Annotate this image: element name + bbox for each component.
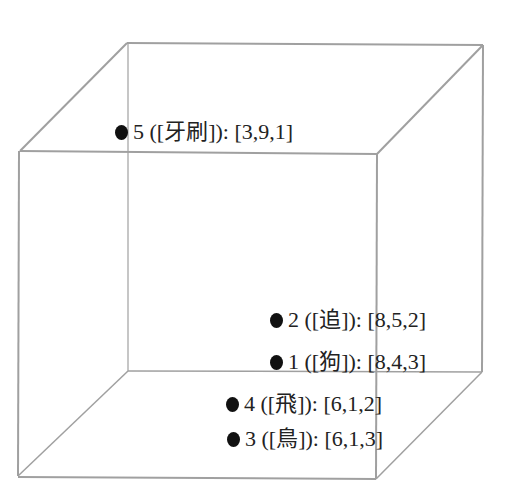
cube-wireframe	[0, 0, 517, 500]
point-text: 3 ([鳥]): [6,1,3]	[245, 428, 383, 450]
point-marker-icon	[227, 432, 240, 447]
point-marker-icon	[270, 355, 283, 370]
top-right-depth-edge	[377, 45, 483, 154]
point-marker-icon	[115, 125, 128, 140]
back-right-edge	[482, 45, 483, 372]
point-label-2: 2 ([追]): [8,5,2]	[270, 309, 426, 331]
point-marker-icon	[270, 313, 283, 328]
bottom-left-depth-edge	[18, 371, 128, 476]
point-label-4: 4 ([飛]): [6,1,2]	[226, 393, 382, 415]
point-marker-icon	[226, 397, 239, 412]
point-text: 1 ([狗]): [8,4,3]	[288, 351, 426, 373]
point-text: 2 ([追]): [8,5,2]	[288, 309, 426, 331]
bottom-right-depth-edge	[376, 372, 482, 479]
back-top-edge	[127, 43, 483, 45]
front-left-edge	[18, 151, 19, 476]
point-text: 5 ([牙刷]): [3,9,1]	[133, 121, 293, 143]
front-top-edge	[20, 151, 377, 154]
point-text: 4 ([飛]): [6,1,2]	[244, 393, 382, 415]
point-label-1: 1 ([狗]): [8,4,3]	[270, 351, 426, 373]
point-label-5: 5 ([牙刷]): [3,9,1]	[115, 121, 293, 143]
front-bottom-edge	[18, 477, 376, 479]
point-label-3: 3 ([鳥]): [6,1,3]	[227, 428, 383, 450]
top-left-depth-edge	[20, 43, 127, 151]
